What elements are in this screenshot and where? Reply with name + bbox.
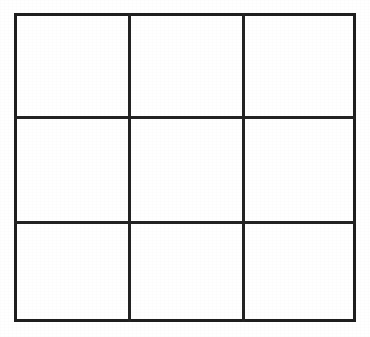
grid-cell-r3c1[interactable]: [17, 224, 128, 322]
grid-figure: [14, 13, 356, 322]
grid-cell-r2c2[interactable]: [131, 119, 242, 221]
grid-cell-r1c2[interactable]: [131, 16, 242, 116]
grid-cell-r2c3[interactable]: [245, 119, 356, 221]
page-surface: [0, 0, 370, 337]
grid-cell-r1c1[interactable]: [17, 16, 128, 116]
grid-cell-r3c2[interactable]: [131, 224, 242, 322]
grid-cell-r2c1[interactable]: [17, 119, 128, 221]
grid-cell-r1c3[interactable]: [245, 16, 356, 116]
grid-cell-r3c3[interactable]: [245, 224, 356, 322]
